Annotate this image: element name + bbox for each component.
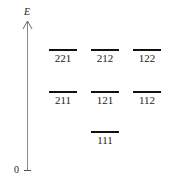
energy-level-label: 221 bbox=[49, 52, 77, 64]
energy-level-line bbox=[133, 49, 161, 51]
origin-tick bbox=[24, 170, 31, 171]
energy-level-line bbox=[91, 131, 119, 133]
energy-axis-label: E bbox=[24, 6, 30, 17]
energy-level-line bbox=[133, 91, 161, 93]
energy-level-line bbox=[49, 49, 77, 51]
energy-axis bbox=[27, 22, 28, 171]
energy-level-label: 121 bbox=[91, 94, 119, 106]
energy-level-line bbox=[49, 91, 77, 93]
arrow-up-icon bbox=[22, 20, 33, 30]
origin-label: 0 bbox=[14, 164, 19, 175]
energy-level-label: 122 bbox=[133, 52, 161, 64]
energy-level-line bbox=[91, 91, 119, 93]
energy-level-label: 111 bbox=[91, 134, 119, 146]
energy-level-label: 211 bbox=[49, 94, 77, 106]
energy-level-label: 212 bbox=[91, 52, 119, 64]
energy-level-label: 112 bbox=[133, 94, 161, 106]
energy-level-line bbox=[91, 49, 119, 51]
